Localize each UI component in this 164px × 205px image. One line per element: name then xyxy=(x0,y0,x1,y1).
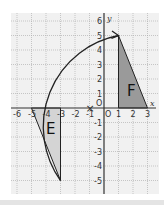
x-axis-label: x xyxy=(150,99,155,108)
svg-text:2: 2 xyxy=(131,110,136,119)
svg-text:3: 3 xyxy=(97,61,102,70)
svg-text:1: 1 xyxy=(116,110,121,119)
y-axis-label: y xyxy=(106,14,112,23)
svg-text:5: 5 xyxy=(97,32,102,41)
svg-text:-1: -1 xyxy=(94,119,102,128)
svg-text:3: 3 xyxy=(145,110,150,119)
svg-text:-5: -5 xyxy=(94,177,102,186)
svg-text:1: 1 xyxy=(97,90,102,99)
svg-text:-1: -1 xyxy=(86,110,94,119)
svg-text:-4: -4 xyxy=(94,162,102,171)
svg-text:-5: -5 xyxy=(28,110,36,119)
origin-label: O xyxy=(105,110,111,119)
shape-e-label: E xyxy=(46,120,55,138)
rotation-diagram: × -6 -5 -4 -3 -2 -1 1 2 3 6 5 4 3 2 1 -1… xyxy=(0,0,164,205)
svg-text:-3: -3 xyxy=(94,148,102,157)
svg-text:4: 4 xyxy=(97,46,102,55)
svg-text:-2: -2 xyxy=(94,133,102,142)
shape-f-label: F xyxy=(127,82,136,100)
svg-text:-2: -2 xyxy=(72,110,80,119)
bottom-divider xyxy=(0,200,164,205)
origin-label-upper: O xyxy=(96,99,102,108)
svg-text:-6: -6 xyxy=(13,110,21,119)
svg-text:-4: -4 xyxy=(43,110,51,119)
svg-text:-3: -3 xyxy=(57,110,65,119)
svg-text:6: 6 xyxy=(97,17,102,26)
svg-text:2: 2 xyxy=(97,75,102,84)
